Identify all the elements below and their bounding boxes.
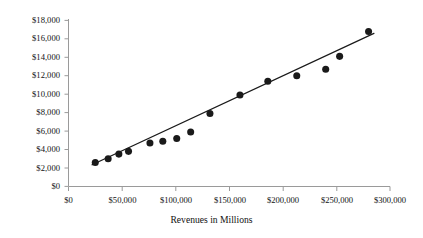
y-tick-label-12000: $12,000 — [4, 71, 60, 80]
chart-screenshot: $18,000 $16,000 $14,000 $12,000 $10,000 … — [0, 0, 423, 238]
x-axis-title: Revenues in Millions — [0, 214, 423, 225]
data-point — [264, 78, 271, 85]
y-tick-label-16000: $16,000 — [4, 34, 60, 43]
x-tick-label-300000: $300,000 — [358, 196, 422, 205]
data-point — [206, 110, 213, 117]
y-tick-label-14000: $14,000 — [4, 53, 60, 62]
y-tick-label-0: $0 — [4, 182, 60, 191]
data-point — [115, 151, 122, 158]
y-tick-label-4000: $4,000 — [4, 145, 60, 154]
scatter-chart: $18,000 $16,000 $14,000 $12,000 $10,000 … — [0, 0, 423, 238]
y-tick-label-18000: $18,000 — [4, 16, 60, 25]
data-point — [236, 92, 243, 99]
data-point — [146, 140, 153, 147]
x-axis-ticks — [69, 187, 391, 192]
y-axis-ticks — [65, 20, 69, 186]
y-tick-label-10000: $10,000 — [4, 90, 60, 99]
data-point — [322, 66, 329, 73]
x-tick-label-0: $0 — [44, 196, 93, 205]
data-point — [92, 159, 99, 166]
data-point — [173, 135, 180, 142]
data-point — [159, 138, 166, 145]
data-point — [105, 155, 112, 162]
data-point — [187, 128, 194, 135]
y-tick-label-2000: $2,000 — [4, 164, 60, 173]
y-tick-label-8000: $8,000 — [4, 108, 60, 117]
y-tick-label-6000: $6,000 — [4, 127, 60, 136]
x-tick-label-50000: $50,000 — [94, 196, 151, 205]
trendline — [92, 33, 374, 164]
data-point — [125, 148, 132, 155]
data-point — [336, 53, 343, 60]
data-point — [365, 28, 372, 35]
data-point — [293, 72, 300, 79]
